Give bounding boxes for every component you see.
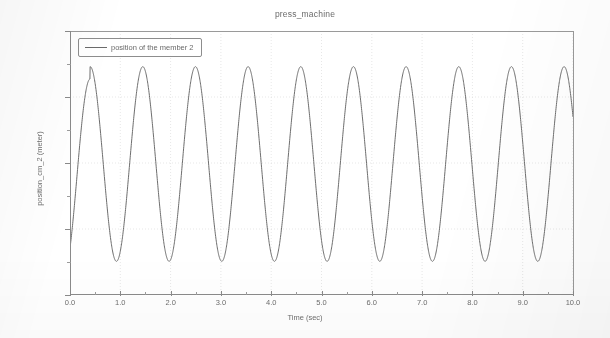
plot-canvas — [70, 31, 573, 295]
x-tick-mark — [472, 291, 473, 296]
x-tick-minor — [296, 292, 297, 295]
y-tick-minor — [67, 262, 71, 263]
x-tick-minor — [347, 292, 348, 295]
x-tick-label: 9.0 — [506, 298, 540, 307]
y-tick-mark — [65, 97, 71, 98]
x-tick-minor — [246, 292, 247, 295]
x-tick-label: 10.0 — [556, 298, 590, 307]
x-tick-mark — [372, 291, 373, 296]
x-tick-minor — [498, 292, 499, 295]
x-tick-minor — [196, 292, 197, 295]
y-tick-minor — [67, 130, 71, 131]
x-tick-label: 4.0 — [254, 298, 288, 307]
y-tick-mark — [65, 31, 71, 32]
x-tick-minor — [447, 292, 448, 295]
x-tick-mark — [221, 291, 222, 296]
legend-line-swatch — [85, 47, 107, 48]
x-tick-minor — [397, 292, 398, 295]
legend-item-label: position of the member 2 — [111, 43, 194, 52]
x-tick-label: 5.0 — [305, 298, 339, 307]
y-tick-mark — [65, 229, 71, 230]
x-tick-label: 3.0 — [204, 298, 238, 307]
plot-area — [70, 31, 573, 295]
x-tick-minor — [95, 292, 96, 295]
x-tick-mark — [523, 291, 524, 296]
x-tick-mark — [70, 291, 71, 296]
x-tick-label: 8.0 — [455, 298, 489, 307]
chart-legend: position of the member 2 — [78, 38, 202, 57]
x-tick-minor — [548, 292, 549, 295]
x-tick-mark — [271, 291, 272, 296]
x-tick-mark — [171, 291, 172, 296]
x-tick-mark — [322, 291, 323, 296]
chart-title: press_machine — [0, 9, 610, 19]
x-tick-label: 1.0 — [103, 298, 137, 307]
x-tick-label: 6.0 — [355, 298, 389, 307]
x-tick-mark — [422, 291, 423, 296]
y-tick-mark — [65, 163, 71, 164]
x-tick-minor — [145, 292, 146, 295]
x-tick-mark — [573, 291, 574, 296]
y-tick-minor — [67, 196, 71, 197]
x-tick-mark — [120, 291, 121, 296]
axis-right-spine — [573, 31, 574, 295]
x-axis-label: Time (sec) — [0, 313, 610, 322]
y-axis-label: position_cm_2 (meter) — [35, 94, 44, 244]
axis-top-spine — [70, 31, 574, 32]
x-tick-label: 2.0 — [154, 298, 188, 307]
x-tick-label: 0.0 — [53, 298, 87, 307]
chart-figure: press_machine 0.70.650.60.550.5 0.01.02.… — [0, 0, 610, 338]
y-tick-minor — [67, 64, 71, 65]
x-tick-label: 7.0 — [405, 298, 439, 307]
